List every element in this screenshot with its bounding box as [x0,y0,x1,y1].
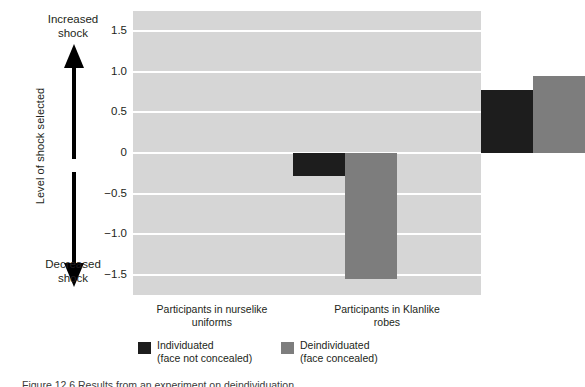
x-category-0-line1: Participants in nurselike [157,303,268,315]
y-tick-label-1: 1.0 [87,66,127,78]
y-axis-tick-labels: 1.51.00.50−0.5−1.0−1.5 [85,11,127,295]
bar-group-1-series-0 [481,90,533,153]
bar-group-1-series-1 [533,76,585,153]
y-tick-label-2: 0.5 [87,106,127,118]
legend-label-individuated-line2: (face not concealed) [157,352,252,365]
legend-label-individuated-line1: Individuated [157,339,214,351]
gridline-6 [133,274,481,276]
gridline-5 [133,233,481,235]
y-axis-title: Level of shock selected [34,46,46,246]
bar-group-0-series-0 [293,153,345,176]
legend-label-deindividuated-line1: Deindividuated [300,339,369,351]
legend-label-individuated: Individuated (face not concealed) [157,339,252,365]
plot-area [133,11,481,295]
legend-swatch-individuated [138,342,151,354]
legend-swatch-deindividuated [281,342,294,354]
y-tick-label-0: 1.5 [87,25,127,37]
decreased-shock-line2: shock [58,272,88,284]
gridline-0 [133,30,481,32]
x-category-1-line1: Participants in Klanlike [334,303,440,315]
y-tick-label-5: −1.0 [87,228,127,240]
y-tick-label-3: 0 [87,147,127,159]
y-tick-label-6: −1.5 [87,269,127,281]
y-tick-label-4: −0.5 [87,188,127,200]
bar-group-0-series-1 [345,153,397,279]
legend: Individuated (face not concealed) Deindi… [0,340,497,374]
legend-label-deindividuated-line2: (face concealed) [300,352,378,365]
increased-shock-line2: shock [58,27,88,39]
gridline-1 [133,71,481,73]
x-category-label-0: Participants in nurselike uniforms [127,303,297,329]
legend-label-deindividuated: Deindividuated (face concealed) [300,339,378,365]
figure-caption: Figure 12.6 Results from an experiment o… [22,379,482,387]
x-category-label-1: Participants in Klanlike robes [302,303,472,329]
gridline-2 [133,111,481,113]
x-category-1-line2: robes [374,316,400,328]
gridline-4 [133,193,481,195]
x-category-0-line2: uniforms [192,316,232,328]
